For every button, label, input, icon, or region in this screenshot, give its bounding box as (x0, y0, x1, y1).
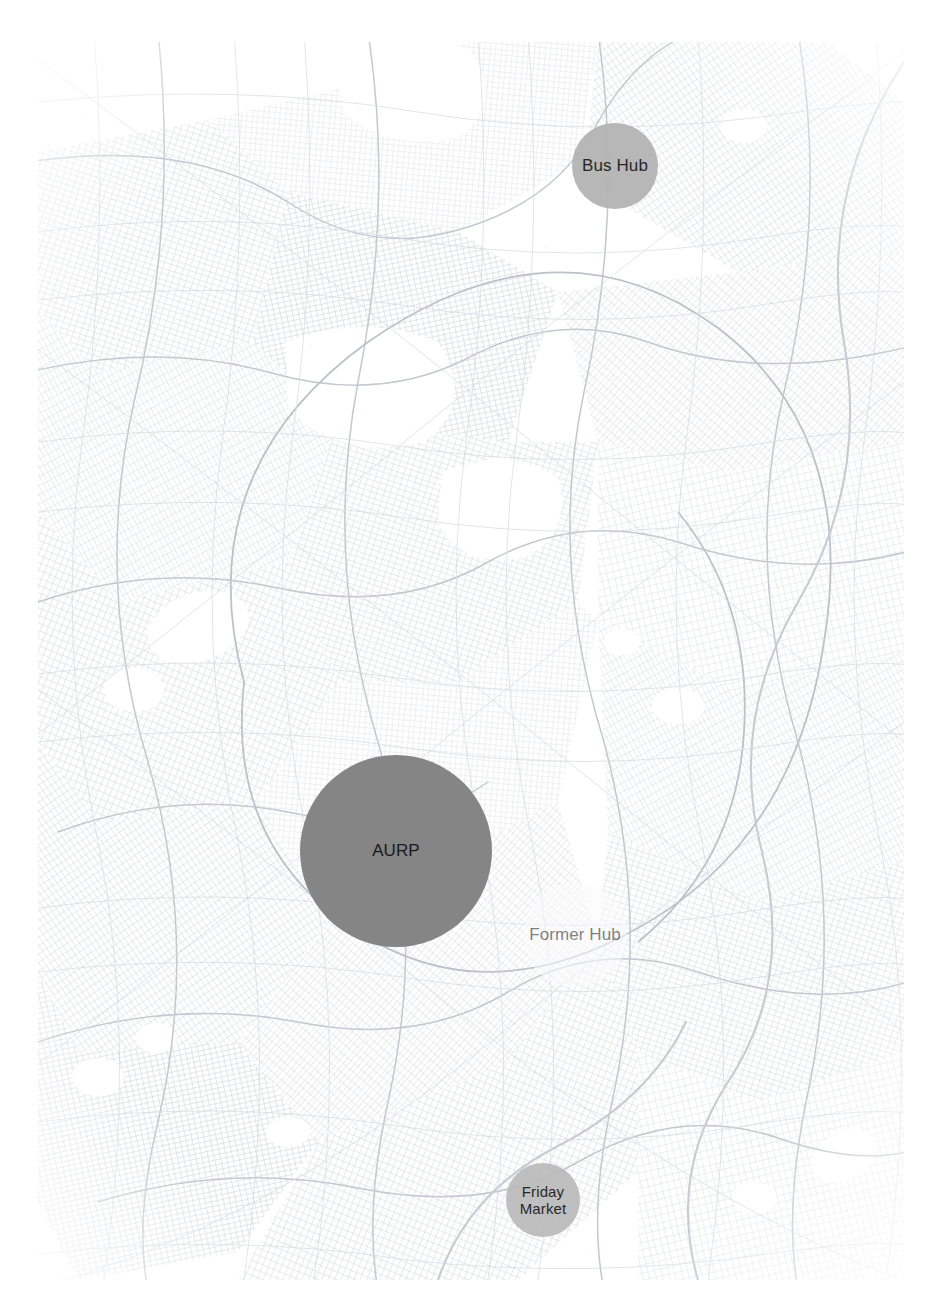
bubble-friday-market[interactable]: Friday Market (506, 1163, 580, 1237)
bubble-aurp[interactable]: AURP (300, 755, 492, 947)
bubble-former-hub[interactable]: Former Hub (523, 883, 627, 987)
bubble-label-friday-market: Friday Market (520, 1183, 566, 1218)
bubble-label-former-hub: Former Hub (529, 925, 621, 945)
bubble-label-bus-hub: Bus Hub (582, 156, 648, 176)
basemap-canvas[interactable] (38, 42, 904, 1280)
bubble-label-aurp: AURP (372, 841, 420, 861)
bubble-map-figure: Bus Hub AURP Former Hub Friday Market (0, 0, 932, 1316)
street-network-svg (38, 42, 904, 1280)
bubble-bus-hub[interactable]: Bus Hub (572, 123, 658, 209)
